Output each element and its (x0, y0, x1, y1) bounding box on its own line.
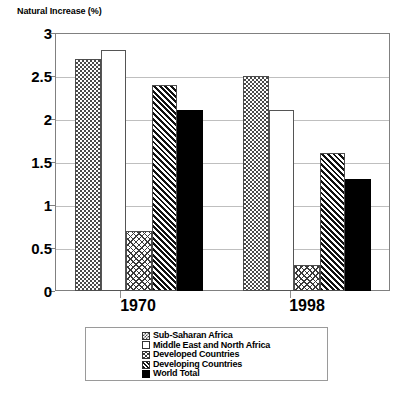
bar-world-total-1970 (177, 110, 203, 291)
y-axis-tick-label: 2.5 (8, 69, 52, 84)
bar-sub-saharan-africa-1998 (243, 76, 269, 291)
x-axis-category-label-1970: 1970 (88, 297, 188, 315)
x-axis-tick (290, 291, 291, 298)
bar-middle-east-and-north-africa-1998 (269, 110, 295, 291)
bar-developing-countries-1998 (320, 153, 346, 291)
legend-swatch-icon (142, 370, 150, 378)
y-axis-tick-label: 3 (8, 26, 52, 41)
chart-axis-title: Natural Increase (%) (17, 6, 102, 16)
y-axis-tick-label: 1 (8, 198, 52, 213)
y-axis-tick-label: 0 (8, 284, 52, 299)
chart-legend: Sub-Saharan AfricaMiddle East and North … (85, 327, 328, 381)
legend-item-world-total[interactable]: World Total (86, 369, 327, 379)
legend-swatch-icon (142, 351, 150, 359)
bar-sub-saharan-africa-1970 (75, 59, 101, 291)
bar-world-total-1998 (345, 179, 371, 291)
legend-item-label: World Total (153, 369, 199, 379)
bar-developed-countries-1998 (294, 265, 320, 291)
y-axis-tick-label: 1.5 (8, 155, 52, 170)
y-axis-tick-label: 2 (8, 112, 52, 127)
x-axis-tick (120, 291, 121, 298)
bar-middle-east-and-north-africa-1970 (101, 50, 127, 291)
legend-swatch-icon (142, 341, 150, 349)
bar-developing-countries-1970 (152, 85, 178, 291)
bar-developed-countries-1970 (126, 231, 152, 291)
legend-swatch-icon (142, 332, 150, 340)
legend-swatch-icon (142, 361, 150, 369)
y-axis-tick-label: 0.5 (8, 241, 52, 256)
x-axis-category-label-1998: 1998 (257, 297, 357, 315)
legend-item-developing-countries[interactable]: Developing Countries (86, 360, 327, 370)
